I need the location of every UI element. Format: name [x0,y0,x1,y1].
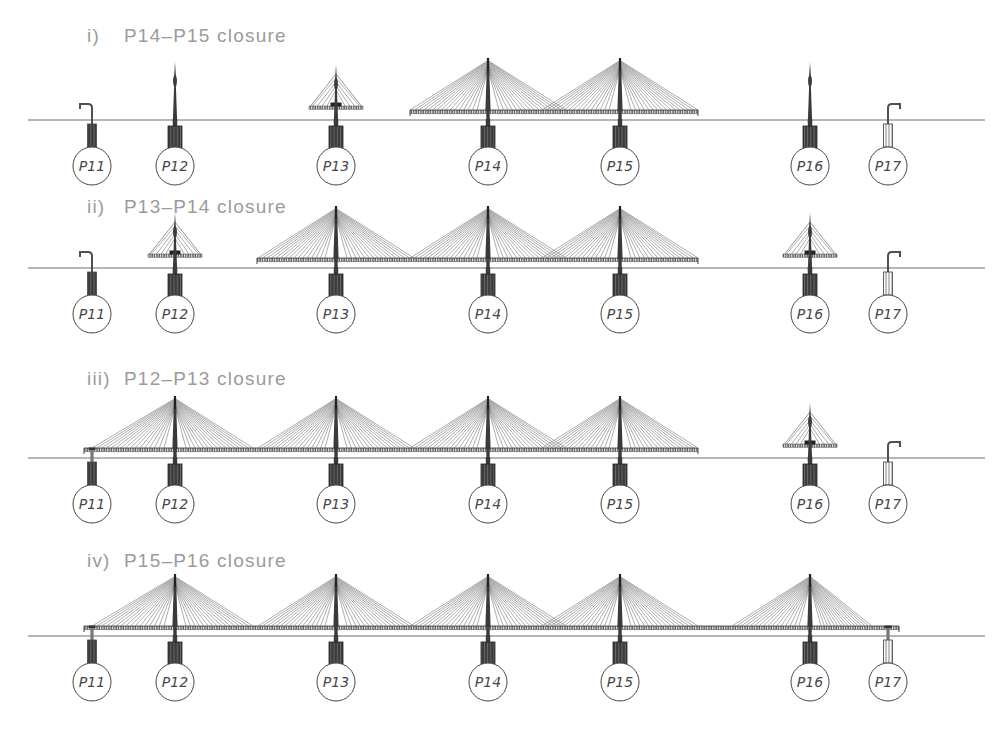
deck-span [84,626,899,632]
pier-label-P11: P11 [73,295,111,333]
pier-P13 [258,574,414,664]
pier-P12 [148,213,202,296]
pier-label-P12: P12 [156,663,194,701]
pier-label-P17: P17 [869,485,907,523]
pier-shaft [613,642,627,664]
pier-label-text: P14 [475,306,501,322]
deck-span [410,110,698,116]
pier-shaft [88,272,97,295]
pier-label-text: P17 [875,158,901,174]
deck-span [257,258,698,264]
pier-label-text: P12 [162,158,188,174]
pier-label-text: P11 [79,674,105,690]
pier-label-P14: P14 [469,295,507,333]
pier-shaft [884,462,893,485]
pier-label-P11: P11 [73,663,111,701]
pier-label-P16: P16 [791,485,829,523]
pier-P16 [732,574,872,664]
pier-shaft [613,274,627,296]
pier-label-text: P13 [323,158,349,174]
pier-label-P14: P14 [469,485,507,523]
pier-P17 [884,252,901,295]
pier-P15 [542,396,698,486]
pier-label-text: P16 [797,496,823,512]
pier-shaft [88,124,97,147]
pier-label-P16: P16 [791,295,829,333]
pier-label-P12: P12 [156,485,194,523]
pier-label-P17: P17 [869,663,907,701]
pier-shaft [481,642,495,664]
pier-label-text: P16 [797,158,823,174]
pier-P13 [258,206,414,296]
pier-label-text: P12 [162,306,188,322]
pier-label-P15: P15 [601,147,639,185]
pier-shaft [613,126,627,148]
pier-P11 [88,626,97,664]
pier-P11 [80,104,97,147]
pier-label-P15: P15 [601,485,639,523]
hook-bracket [888,104,900,124]
pier-shaft [803,126,817,148]
bearing-stub [90,450,93,462]
pier-shaft [481,274,495,296]
pier-P15 [542,58,698,148]
pier-P17 [884,104,901,147]
pier-label-text: P11 [79,306,105,322]
pier-shaft [168,274,182,296]
hook-bracket [80,252,92,272]
bearing-stub [90,628,93,640]
pier-label-P16: P16 [791,147,829,185]
pier-shaft [329,642,343,664]
bearing-stub [886,628,889,640]
pier-P13 [258,396,414,486]
hook-bracket [888,252,900,272]
pier-label-P11: P11 [73,147,111,185]
pier-label-text: P11 [79,496,105,512]
pier-shaft [613,464,627,486]
pier-label-P13: P13 [317,663,355,701]
pier-label-P15: P15 [601,663,639,701]
pier-P14 [410,58,566,148]
pier-label-P16: P16 [791,663,829,701]
pier-label-text: P15 [607,496,633,512]
construction-sequence-figure: i) P14–P15 closure ii) P13–P14 closure i… [0,0,998,737]
pier-label-text: P17 [875,674,901,690]
cable-fan [92,399,253,448]
pier-P15 [542,206,698,296]
pier-P17 [884,626,893,664]
pier-shaft [168,464,182,486]
pier-label-text: P15 [607,158,633,174]
pier-label-text: P15 [607,306,633,322]
pier-label-text: P16 [797,674,823,690]
pier-label-P13: P13 [317,147,355,185]
pier-P14 [410,206,566,296]
pier-P12 [92,396,253,486]
pier-P11 [80,252,97,295]
pier-P11 [88,448,97,486]
pier-label-P12: P12 [156,147,194,185]
pier-label-text: P12 [162,674,188,690]
pier-shaft [168,642,182,664]
pier-shaft [884,124,893,147]
pier-label-text: P14 [475,158,501,174]
pier-shaft [329,274,343,296]
pier-label-P15: P15 [601,295,639,333]
pier-label-P14: P14 [469,147,507,185]
hook-bracket [888,442,900,462]
pier-P16 [783,403,837,486]
pier-shaft [884,640,893,663]
pier-label-text: P17 [875,306,901,322]
pier-label-text: P13 [323,496,349,512]
pier-shaft [803,464,817,486]
pier-label-text: P16 [797,306,823,322]
pier-label-P11: P11 [73,485,111,523]
stage-2-drawing: P11P12P13P14P15P16P17 [28,206,985,333]
pier-shaft [803,274,817,296]
pier-P14 [410,396,566,486]
pier-shaft [481,464,495,486]
pier-shaft [329,464,343,486]
pier-label-P12: P12 [156,295,194,333]
pier-label-text: P13 [323,674,349,690]
cable-fan [92,577,253,626]
bridge-elevation-diagram: P11P12P13P14P15P16P17P11P12P13P14P15P16P… [0,0,998,737]
